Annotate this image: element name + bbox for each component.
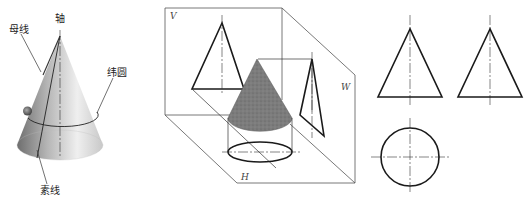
leader-generatrix — [21, 34, 41, 72]
plane-w — [282, 8, 355, 183]
figure-shaded-cone: 轴 母线 纬圆 素线 — [9, 12, 127, 196]
label-latitude-circle: 纬圆 — [107, 66, 127, 78]
figure-orthographic-views — [371, 15, 522, 193]
label-plane-w: W — [341, 82, 351, 92]
label-element-line: 素线 — [40, 184, 60, 196]
label-generatrix: 母线 — [9, 23, 29, 35]
v-projection — [192, 23, 244, 89]
leader-latitude — [97, 78, 113, 113]
figure-projection-planes: V H W — [165, 8, 355, 183]
label-plane-v: V — [170, 11, 178, 21]
drawing-canvas: 轴 母线 纬圆 素线 V H W — [0, 0, 529, 206]
label-axis: 轴 — [55, 12, 65, 24]
moving-point — [23, 107, 32, 116]
label-plane-h: H — [240, 172, 249, 182]
